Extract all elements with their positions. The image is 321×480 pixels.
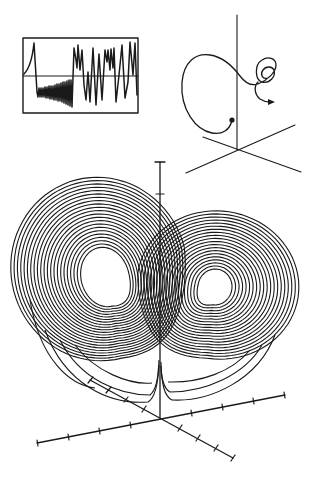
trajectory-arrow-icon: [268, 99, 275, 105]
inset-signal: [24, 42, 137, 107]
single-trajectory: [182, 15, 301, 173]
traj-x-axis: [186, 125, 295, 173]
lorenz-figure: [0, 0, 321, 480]
traj-y-axis: [203, 137, 301, 172]
figure-canvas: [0, 0, 321, 480]
main-y-axis: [90, 380, 233, 458]
trajectory-curve: [182, 55, 276, 134]
attractor-trajectory: [11, 177, 299, 402]
attractor-main: [11, 162, 299, 461]
time-series-inset: [23, 38, 138, 113]
